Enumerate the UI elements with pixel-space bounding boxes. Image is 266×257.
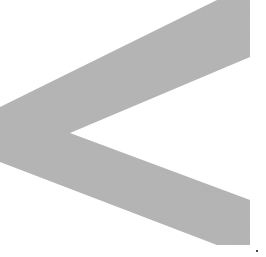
chevron-graphic-svg <box>0 0 266 257</box>
dust-speck <box>256 250 258 252</box>
image-canvas <box>0 0 266 257</box>
